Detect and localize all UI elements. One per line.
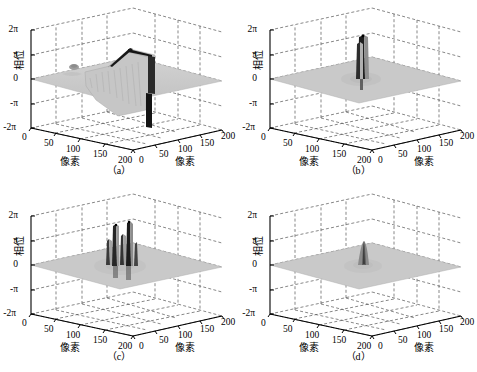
y-tick-a-3: 150 — [200, 138, 214, 148]
surface-plane — [270, 241, 461, 289]
z-tick-d-1: π — [235, 235, 257, 245]
grid-floor — [31, 298, 222, 336]
panel-caption-a: （a） — [0, 162, 238, 177]
z-tick-c-0: 2π — [0, 210, 18, 220]
x-tick-b-0: 0 — [261, 132, 266, 142]
z-tick-b-1: π — [235, 49, 257, 59]
z-tick-a-2: 0 — [0, 73, 18, 83]
z-tick-b-2: 0 — [235, 73, 257, 83]
x-tick-b-1: 50 — [283, 138, 293, 148]
x-tick-d-0: 0 — [261, 318, 266, 328]
z-tick-c-4: -2π — [0, 308, 16, 318]
x-tick-a-1: 50 — [44, 138, 54, 148]
z-tick-marks — [31, 30, 35, 128]
y-tick-d-1: 50 — [398, 335, 408, 345]
panel-caption-b: （b） — [239, 162, 477, 177]
y-tick-c-3: 150 — [200, 324, 214, 334]
y-tick-b-4: 200 — [460, 131, 474, 141]
z-tick-d-3: -π — [235, 284, 257, 294]
z-tick-d-0: 2π — [235, 210, 257, 220]
y-tick-d-4: 200 — [460, 317, 474, 327]
y-tick-b-3: 150 — [439, 138, 453, 148]
z-tick-d-2: 0 — [235, 259, 257, 269]
z-tick-c-2: 0 — [0, 259, 18, 269]
z-tick-marks — [31, 216, 35, 314]
z-tick-a-4: -2π — [0, 122, 16, 132]
grid-floor — [31, 112, 222, 150]
z-tick-marks — [270, 216, 274, 314]
y-tick-b-1: 50 — [398, 149, 408, 159]
y-tick-c-4: 200 — [221, 317, 235, 327]
x-tick-d-3: 150 — [332, 335, 346, 345]
z-tick-a-1: π — [0, 49, 18, 59]
panel-b: 相位 2π π 0 -π -2π 0 50 100 150 200 像素 0 5… — [239, 0, 477, 186]
surface-plane — [31, 48, 222, 128]
z-tick-a-0: 2π — [0, 24, 18, 34]
y-tick-d-3: 150 — [439, 324, 453, 334]
y-tick-c-1: 50 — [159, 335, 169, 345]
grid-floor — [270, 112, 461, 150]
z-tick-a-3: -π — [0, 98, 18, 108]
x-tick-b-3: 150 — [332, 149, 346, 159]
grid-floor — [270, 298, 461, 336]
x-tick-c-3: 150 — [93, 335, 107, 345]
z-tick-marks — [270, 30, 274, 128]
x-tick-c-0: 0 — [22, 318, 27, 328]
z-tick-c-3: -π — [0, 284, 18, 294]
y-tick-a-4: 200 — [221, 131, 235, 141]
z-tick-b-0: 2π — [235, 24, 257, 34]
panel-caption-c: （c） — [0, 348, 238, 363]
x-tick-a-3: 150 — [93, 149, 107, 159]
x-tick-c-1: 50 — [44, 324, 54, 334]
z-tick-c-1: π — [0, 235, 18, 245]
panel-c: 相位 2π π 0 -π -2π 0 50 100 150 200 像素 0 5… — [0, 186, 238, 372]
panel-caption-d: （d） — [239, 348, 477, 363]
x-tick-a-0: 0 — [22, 132, 27, 142]
panel-d: 相位 2π π 0 -π -2π 0 50 100 150 200 像素 0 5… — [239, 186, 477, 372]
z-tick-d-4: -2π — [233, 308, 255, 318]
surface-plane — [31, 221, 222, 289]
x-tick-d-1: 50 — [283, 324, 293, 334]
z-tick-b-3: -π — [235, 98, 257, 108]
z-tick-b-4: -2π — [233, 122, 255, 132]
figure-3d-phase-surfaces: 相位 2π π 0 -π -2π 0 50 100 150 200 像素 0 5… — [0, 0, 477, 372]
panel-a: 相位 2π π 0 -π -2π 0 50 100 150 200 像素 0 5… — [0, 0, 238, 186]
surface-plane — [270, 35, 461, 103]
y-tick-a-1: 50 — [159, 149, 169, 159]
